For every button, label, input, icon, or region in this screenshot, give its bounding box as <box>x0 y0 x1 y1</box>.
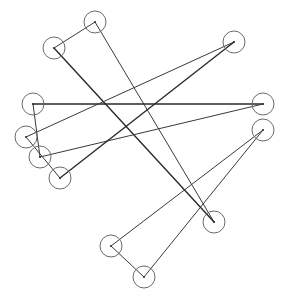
node-center-dot <box>233 41 235 43</box>
edge-A-J <box>95 22 214 222</box>
node-center-dot <box>94 21 96 23</box>
node-K <box>100 235 122 257</box>
node-center-dot <box>32 103 34 105</box>
node-B <box>43 37 65 59</box>
node-center-dot <box>213 221 215 223</box>
graph-canvas <box>0 0 283 301</box>
edge-K-H <box>111 130 263 246</box>
node-J <box>203 211 225 233</box>
node-G <box>29 146 51 168</box>
edge-K-L <box>111 246 144 277</box>
node-A <box>84 11 106 33</box>
edges-layer <box>26 22 263 277</box>
node-C <box>223 31 245 53</box>
node-center-dot <box>262 103 264 105</box>
node-center-dot <box>59 177 61 179</box>
edge-L-H <box>144 130 263 277</box>
edge-G-E <box>40 104 263 157</box>
node-center-dot <box>25 136 27 138</box>
edge-A-B <box>54 22 95 48</box>
graph-diagram <box>0 0 283 301</box>
node-center-dot <box>262 129 264 131</box>
nodes-layer <box>15 11 274 288</box>
node-center-dot <box>39 156 41 158</box>
node-F <box>15 126 37 148</box>
edge-F-I <box>26 137 60 178</box>
node-I <box>49 167 71 189</box>
node-L <box>133 266 155 288</box>
node-center-dot <box>143 276 145 278</box>
node-H <box>252 119 274 141</box>
node-center-dot <box>53 47 55 49</box>
node-center-dot <box>110 245 112 247</box>
